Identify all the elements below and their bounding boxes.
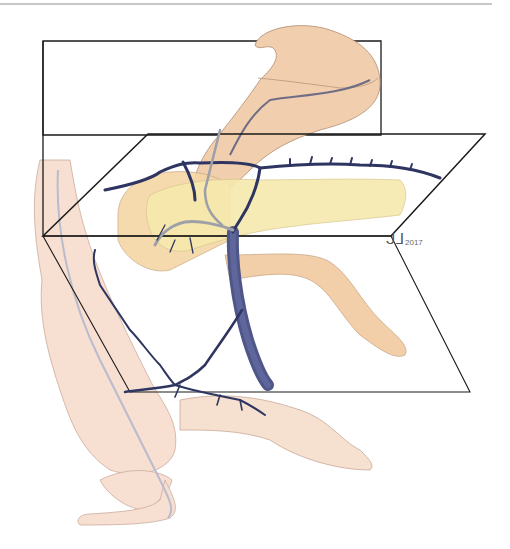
signature-year: 2017 xyxy=(405,238,423,247)
artist-signature: ᒍᒧ2017 xyxy=(386,230,423,248)
illustration-canvas: ᒍᒧ2017 xyxy=(0,0,510,549)
small-bowel xyxy=(180,396,372,470)
signature-initials: ᒍᒧ xyxy=(386,231,404,247)
pancreas xyxy=(146,179,406,251)
anatomy-illustration xyxy=(0,0,510,549)
